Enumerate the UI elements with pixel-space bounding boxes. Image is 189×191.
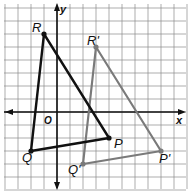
vertex-label-r-prime: R' <box>87 33 99 48</box>
vertex-point-q-prime <box>80 161 85 166</box>
x-axis-label: x <box>175 114 183 126</box>
vertex-label-q-prime: Q' <box>68 162 81 177</box>
vertex-point-r <box>41 31 46 36</box>
image-triangle: R'Q'P' <box>68 33 171 177</box>
original-triangle: RQP <box>22 20 123 165</box>
vertex-point-p <box>106 135 111 140</box>
vertex-label-r: R <box>32 20 41 35</box>
vertex-label-q: Q <box>22 150 32 165</box>
y-axis-label: y <box>59 3 67 15</box>
vertex-label-p: P <box>114 136 123 151</box>
y-axis-down-arrow-icon <box>54 182 60 190</box>
vertex-label-p-prime: P' <box>159 151 171 166</box>
origin-label: O <box>44 115 52 126</box>
x-axis-left-arrow-icon <box>5 109 13 115</box>
coordinate-plane-figure: x y O R'Q'P' RQP <box>0 0 189 191</box>
